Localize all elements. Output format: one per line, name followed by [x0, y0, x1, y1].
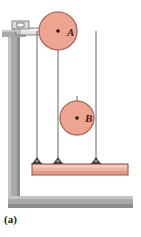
pulley-a-label: A [66, 26, 74, 38]
figure-container: A B [0, 0, 141, 237]
anchor-left-eye-icon [35, 159, 38, 162]
pulley-b-label: B [84, 112, 92, 124]
pulley-b: B [60, 101, 94, 135]
pulley-a: A [39, 12, 77, 50]
platform-bottom-shade [33, 171, 127, 174]
pulley-b-axle-dot [75, 116, 79, 120]
pulley-a-axle-dot [56, 29, 60, 33]
platform-top-highlight [33, 165, 127, 168]
cord-group [37, 31, 96, 164]
wall-vertical-highlight [8, 30, 11, 208]
figure-caption: (a) [4, 213, 17, 225]
wall-vertical-shadow [17, 30, 20, 208]
bracket-bolt-icon [17, 23, 24, 27]
pulley-system-illustration: A B [0, 0, 141, 237]
anchor-middle-eye-icon [56, 159, 59, 162]
wall-floor-highlight [8, 196, 133, 199]
anchor-platform [32, 164, 128, 175]
wall-floor-shadow [8, 204, 133, 208]
anchor-right-eye-icon [94, 159, 97, 162]
